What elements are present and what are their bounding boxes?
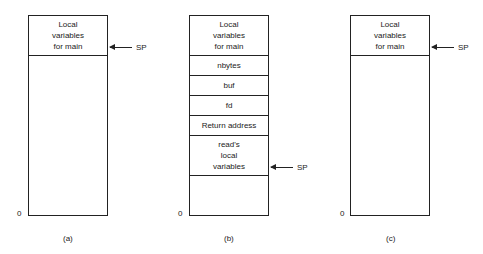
sp-label: SP — [136, 43, 147, 52]
caption-a: (a) — [63, 234, 73, 243]
sp-pointer-c: SP — [432, 42, 469, 52]
cell-empty — [29, 56, 107, 215]
cell-main-locals: Local variables for main — [29, 16, 107, 56]
cell-fd: fd — [190, 96, 268, 116]
caption-c: (c) — [386, 234, 395, 243]
stack-b: Local variables for main nbytes buf fd R… — [189, 15, 269, 216]
arrow-left-icon — [110, 47, 132, 48]
cell-empty — [190, 176, 268, 215]
arrow-left-icon — [271, 167, 293, 168]
sp-pointer-a: SP — [110, 42, 147, 52]
cell-main-locals: Local variables for main — [351, 16, 429, 56]
zero-label-a: 0 — [17, 209, 21, 218]
stack-c: Local variables for main — [350, 15, 430, 216]
zero-label-b: 0 — [178, 209, 182, 218]
arrow-left-icon — [432, 47, 454, 48]
caption-b: (b) — [224, 234, 234, 243]
cell-empty — [351, 56, 429, 215]
sp-label: SP — [297, 163, 308, 172]
zero-label-c: 0 — [340, 209, 344, 218]
cell-main-locals: Local variables for main — [190, 16, 268, 56]
sp-pointer-b: SP — [271, 162, 308, 172]
cell-return-address: Return address — [190, 116, 268, 136]
cell-read-locals: read's local variables — [190, 136, 268, 176]
sp-label: SP — [458, 43, 469, 52]
cell-nbytes: nbytes — [190, 56, 268, 76]
stack-a: Local variables for main — [28, 15, 108, 216]
cell-buf: buf — [190, 76, 268, 96]
